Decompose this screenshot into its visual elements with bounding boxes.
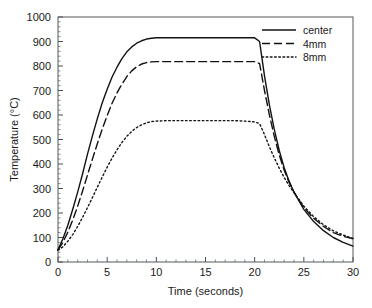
y-tick-label: 700 bbox=[33, 85, 51, 97]
y-tick-label: 0 bbox=[45, 256, 51, 268]
chart-figure: 01002003004005006007008009001000 0510152… bbox=[0, 0, 372, 308]
y-tick-label: 300 bbox=[33, 183, 51, 195]
y-tick-label: 400 bbox=[33, 158, 51, 170]
y-tick-label: 900 bbox=[33, 36, 51, 48]
x-tick-label: 0 bbox=[55, 266, 61, 278]
x-tick-label: 30 bbox=[347, 266, 359, 278]
x-tick-label: 5 bbox=[104, 266, 110, 278]
y-tick-label: 1000 bbox=[27, 11, 51, 23]
x-axis-title: Time (seconds) bbox=[168, 285, 243, 297]
y-tick-label: 100 bbox=[33, 232, 51, 244]
y-tick-label: 500 bbox=[33, 134, 51, 146]
y-tick-label: 600 bbox=[33, 109, 51, 121]
legend-label-center: center bbox=[303, 24, 333, 36]
legend-label-4mm: 4mm bbox=[303, 38, 327, 50]
y-tick-label: 200 bbox=[33, 207, 51, 219]
x-tick-label: 15 bbox=[199, 266, 211, 278]
x-tick-label: 10 bbox=[150, 266, 162, 278]
y-tick-label: 800 bbox=[33, 60, 51, 72]
x-tick-label: 25 bbox=[298, 266, 310, 278]
legend-label-8mm: 8mm bbox=[303, 51, 327, 63]
temperature-vs-time-chart: 01002003004005006007008009001000 0510152… bbox=[0, 0, 372, 308]
y-axis-title: Temperature (°C) bbox=[8, 97, 20, 181]
x-tick-label: 20 bbox=[249, 266, 261, 278]
